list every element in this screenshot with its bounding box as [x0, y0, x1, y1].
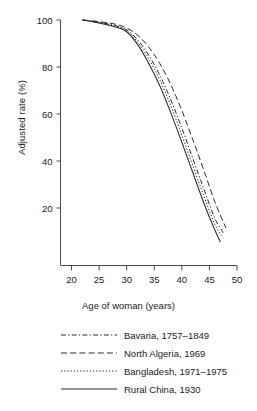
legend-item-label: Bangladesh, 1971–1975: [124, 366, 227, 377]
y-axis-ticks: 20406080100: [37, 15, 61, 214]
legend-item-label: Rural China, 1930: [124, 384, 201, 395]
x-tick-label: 45: [204, 274, 215, 285]
series-line-0: [83, 20, 224, 233]
axis-group: [61, 20, 238, 266]
y-tick-label: 60: [42, 109, 53, 120]
x-tick-label: 25: [94, 274, 105, 285]
y-tick-label: 20: [42, 203, 53, 214]
y-tick-label: 100: [37, 15, 53, 26]
y-tick-label: 80: [42, 62, 53, 73]
x-tick-label: 40: [177, 274, 188, 285]
x-tick-label: 35: [149, 274, 160, 285]
legend-line-swatch: [60, 383, 118, 395]
figure: 20406080100 20253035404550 Adjusted rate…: [0, 0, 257, 411]
y-tick-label: 40: [42, 156, 53, 167]
x-tick-label: 30: [121, 274, 132, 285]
x-tick-label: 50: [232, 274, 243, 285]
legend-item[interactable]: Bavaria, 1757–1849: [0, 326, 257, 344]
legend-item[interactable]: North Algeria, 1969: [0, 344, 257, 362]
legend-line-swatch: [60, 347, 118, 359]
legend-line-swatch: [60, 365, 118, 377]
chart-legend: Bavaria, 1757–1849North Algeria, 1969Ban…: [0, 326, 257, 398]
legend-line-swatch: [60, 329, 118, 341]
legend-item-label: Bavaria, 1757–1849: [124, 330, 209, 341]
x-axis-ticks: 20253035404550: [66, 266, 242, 285]
chart-series-group: [83, 20, 226, 242]
legend-item[interactable]: Bangladesh, 1971–1975: [0, 362, 257, 380]
chart-plot-area: 20406080100 20253035404550: [0, 0, 257, 300]
series-line-2: [83, 20, 224, 237]
legend-item-label: North Algeria, 1969: [124, 348, 205, 359]
legend-item[interactable]: Rural China, 1930: [0, 380, 257, 398]
y-axis-title: Adjusted rate (%): [16, 53, 27, 183]
series-line-3: [83, 20, 221, 242]
x-axis-title: Age of woman (years): [0, 300, 257, 311]
x-tick-label: 20: [66, 274, 77, 285]
